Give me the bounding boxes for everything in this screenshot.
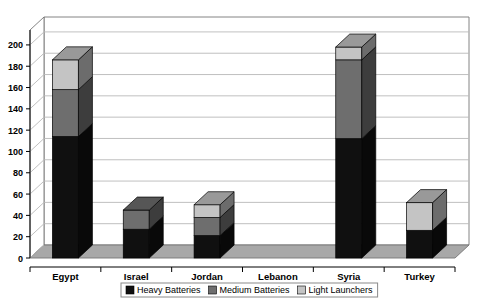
- y-tick-label: 20: [13, 232, 23, 242]
- y-tick-label: 180: [8, 62, 23, 72]
- y-tick-label: 0: [18, 254, 23, 264]
- legend: Heavy BatteriesMedium BatteriesLight Lau…: [121, 283, 378, 297]
- bar-segment-front: [123, 210, 149, 229]
- y-tick-label: 140: [8, 104, 23, 114]
- bar-segment-side: [78, 124, 92, 258]
- x-axis-group: EgyptIsraelJordanLebanonSyriaTurkey: [30, 267, 455, 282]
- x-category-label: Syria: [337, 271, 361, 282]
- bar-segment-front: [123, 229, 149, 258]
- bar-segment-front: [194, 218, 220, 236]
- bar-segment-front: [407, 203, 433, 231]
- y-tick-label: 100: [8, 147, 23, 157]
- bar-segment-front: [52, 60, 78, 90]
- y-tick-label: 200: [8, 40, 23, 50]
- x-category-label: Egypt: [52, 271, 79, 282]
- bar-segment-side: [362, 47, 376, 139]
- x-category-label: Turkey: [404, 271, 435, 282]
- legend-label: Light Launchers: [309, 285, 374, 295]
- y-tick-labels: 020406080100120140160180200: [8, 40, 23, 263]
- bar-jordan: [194, 192, 234, 258]
- bar-turkey: [407, 190, 447, 258]
- plot-back-wall: [44, 17, 469, 245]
- plot-floor: [30, 245, 469, 258]
- bar-syria: [336, 34, 376, 258]
- x-category-label: Jordan: [191, 271, 223, 282]
- plot-left-wall: [30, 17, 44, 258]
- y-tick-label: 120: [8, 126, 23, 136]
- bar-segment-front: [336, 47, 362, 60]
- x-category-label: Israel: [124, 271, 149, 282]
- y-tick-label: 160: [8, 83, 23, 93]
- y-tick-label: 60: [13, 190, 23, 200]
- bar-egypt: [52, 47, 92, 258]
- y-tick-label: 40: [13, 211, 23, 221]
- bar-segment-front: [407, 230, 433, 258]
- bar-segment-front: [336, 60, 362, 139]
- y-tick-label: 80: [13, 168, 23, 178]
- chart-container: 020406080100120140160180200EgyptIsraelJo…: [0, 0, 484, 306]
- legend-swatch-light-swatch: [298, 286, 306, 294]
- bar-segment-front: [52, 137, 78, 258]
- bar-segment-front: [194, 205, 220, 218]
- bar-segment-front: [52, 90, 78, 137]
- bar-segment-front: [194, 236, 220, 258]
- legend-label: Heavy Batteries: [137, 285, 201, 295]
- legend-label: Medium Batteries: [220, 285, 291, 295]
- legend-swatch-medium-swatch: [209, 286, 217, 294]
- bar-segment-front: [336, 139, 362, 258]
- stacked-column-3d-chart: 020406080100120140160180200EgyptIsraelJo…: [0, 0, 484, 306]
- bar-israel: [123, 197, 163, 258]
- x-category-label: Lebanon: [258, 271, 298, 282]
- legend-swatch-heavy-swatch: [126, 286, 134, 294]
- bar-segment-side: [362, 126, 376, 258]
